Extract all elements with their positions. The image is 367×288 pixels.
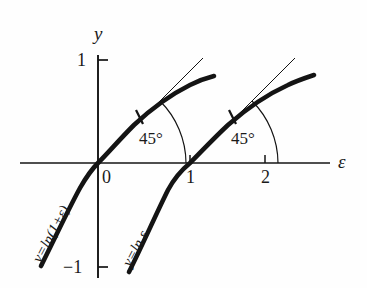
tangent-lines [98,58,295,163]
angle-arc-left [160,101,186,163]
x-tick-label-2: 2 [261,168,270,186]
y-tick-label-1: 1 [77,51,86,69]
figure-canvas: y ε 1 −1 0 1 2 45° 45° y=ln(1+ε) y=ln ε [0,0,367,288]
x-tick-label-1: 1 [186,168,195,186]
angle-label-right: 45° [231,130,255,147]
origin-label: 0 [102,168,111,186]
angle-arc-right [252,101,278,163]
angle-label-left: 45° [139,130,163,147]
y-axis-label: y [94,24,102,43]
y-tick-label-minus-1: −1 [63,258,82,276]
log-curves-plot [0,0,367,288]
x-axis-label: ε [338,152,346,171]
